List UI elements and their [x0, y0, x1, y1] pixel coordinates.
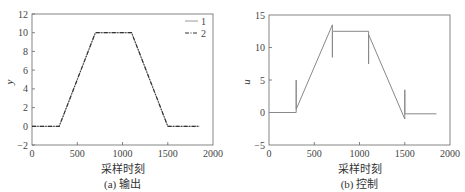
x-axis-label: 采样时刻 [269, 160, 450, 176]
x-axis-label: 采样时刻 [32, 160, 213, 176]
y-tick: 10 [18, 27, 28, 38]
y-axis-label: u [240, 79, 252, 85]
figure-caption-a: (a) 输出 [32, 175, 213, 191]
y-tick: 8 [23, 46, 28, 57]
y-tick: 2 [23, 102, 28, 113]
x-tick: 1000 [113, 148, 133, 159]
y-tick: 12 [18, 9, 28, 20]
legend: 1 2 [185, 16, 206, 39]
y-tick: 0 [260, 107, 265, 118]
x-tick: 500 [307, 148, 322, 159]
y-tick: −5 [254, 140, 265, 151]
x-tick: 0 [30, 148, 35, 159]
x-tick: 1500 [395, 148, 415, 159]
legend-label: 2 [201, 28, 206, 39]
figure-caption-b: (b) 控制 [269, 175, 450, 191]
series-1-line [32, 33, 199, 127]
x-tick: 500 [70, 148, 85, 159]
y-axis-label: y [3, 79, 15, 85]
y-tick: 0 [23, 121, 28, 132]
y-tick: 5 [260, 75, 265, 86]
chart-output: 12 10 8 6 4 2 0 −2 0 500 1000 1500 2000 … [3, 9, 223, 160]
series-2-line [32, 33, 199, 127]
x-tick: 1000 [350, 148, 370, 159]
y-tick: 15 [255, 10, 265, 21]
x-tick: 0 [267, 148, 272, 159]
x-tick: 1500 [158, 148, 178, 159]
y-tick: 10 [255, 42, 265, 53]
y-tick: −2 [17, 140, 28, 151]
legend-label: 1 [201, 16, 206, 27]
y-tick: 6 [23, 65, 28, 76]
y-tick: 4 [23, 83, 28, 94]
x-tick: 2000 [440, 148, 460, 159]
control-signal-line [269, 25, 436, 119]
chart-control: 15 10 5 0 −5 0 500 1000 1500 2000 u [240, 10, 460, 160]
x-tick: 2000 [203, 148, 223, 159]
